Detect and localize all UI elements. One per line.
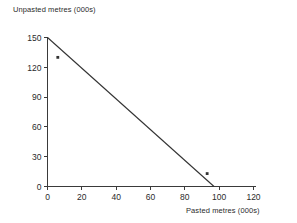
data-line-constraint: [48, 38, 215, 187]
x-tick-label: 80: [180, 192, 190, 202]
y-tick-label: 60: [32, 122, 42, 132]
y-tick-mark-group: [44, 38, 48, 187]
x-tick-label: 120: [246, 192, 260, 202]
y-tick-label-group: 0306090120150: [27, 33, 41, 192]
y-tick-label: 90: [32, 92, 42, 102]
x-tick-label: 60: [146, 192, 156, 202]
x-tick-label: 0: [45, 192, 50, 202]
data-marker-group: [56, 56, 208, 175]
x-tick-mark-group: [48, 187, 254, 191]
x-tick-label-group: 020406080100120: [45, 192, 261, 202]
x-tick-label: 40: [111, 192, 121, 202]
plot-area: 0306090120150 020406080100120: [0, 0, 297, 223]
y-tick-label: 120: [27, 63, 41, 73]
chart-figure: Unpasted metres (000s) Pasted metres (00…: [0, 0, 297, 223]
x-tick-label: 100: [212, 192, 226, 202]
x-tick-label: 20: [77, 192, 87, 202]
y-tick-label: 150: [27, 33, 41, 43]
data-point-marker: [56, 56, 59, 59]
data-point-marker: [206, 172, 209, 175]
y-tick-label: 0: [37, 182, 42, 192]
y-tick-label: 30: [32, 152, 42, 162]
